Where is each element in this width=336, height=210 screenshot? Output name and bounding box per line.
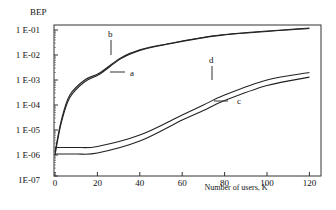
curve-d bbox=[55, 72, 309, 147]
curve-b bbox=[55, 28, 309, 152]
curve-c bbox=[55, 77, 309, 154]
annotation-d: d bbox=[209, 55, 214, 80]
curve-a bbox=[55, 28, 309, 155]
curves bbox=[55, 28, 309, 155]
y-tick-label: 1 E-05 bbox=[16, 125, 41, 135]
curve-label-a: a bbox=[130, 68, 134, 78]
y-tick-label: 1 E-01 bbox=[16, 25, 40, 35]
annotation-a: a bbox=[110, 68, 134, 78]
curve-label-b: b bbox=[108, 29, 113, 39]
y-tick-label: 1 E-02 bbox=[16, 50, 40, 60]
y-tick-label: 1 E-04 bbox=[16, 100, 41, 110]
annotation-b: b bbox=[108, 29, 113, 55]
curve-label-d: d bbox=[209, 55, 214, 65]
ber-chart: BEP 1 E-011 E-021 E-031 E-041 E-051 E-06… bbox=[0, 0, 336, 210]
y-axis: 1 E-011 E-021 E-031 E-041 E-051 E-061E-0… bbox=[16, 25, 58, 185]
y-tick-label: 1 E-03 bbox=[16, 75, 41, 85]
x-axis: 020406080100120 bbox=[53, 172, 317, 188]
y-axis-title: BEP bbox=[30, 7, 47, 17]
x-tick-label: 40 bbox=[135, 178, 145, 188]
x-tick-label: 0 bbox=[53, 178, 58, 188]
y-tick-label: 1 E-06 bbox=[16, 150, 41, 160]
y-tick-label: 1E-07 bbox=[18, 175, 40, 185]
x-axis-title: Number of users, K bbox=[204, 183, 267, 192]
x-tick-label: 120 bbox=[303, 178, 317, 188]
x-tick-label: 20 bbox=[93, 178, 103, 188]
curve-label-c: c bbox=[237, 96, 241, 106]
x-tick-label: 60 bbox=[178, 178, 188, 188]
